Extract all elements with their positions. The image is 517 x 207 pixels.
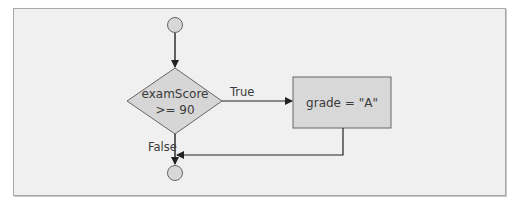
false-label: False — [148, 140, 177, 154]
decision-diamond — [127, 68, 222, 134]
action-text: grade = "A" — [306, 96, 378, 110]
end-node — [168, 166, 183, 181]
decision-line1: examScore — [142, 87, 209, 101]
decision-line2: >= 90 — [155, 103, 194, 117]
merge-path — [177, 128, 343, 155]
true-label: True — [229, 85, 254, 99]
start-node — [168, 18, 183, 33]
flowchart: examScore >= 90 True grade = "A" False — [0, 0, 517, 207]
